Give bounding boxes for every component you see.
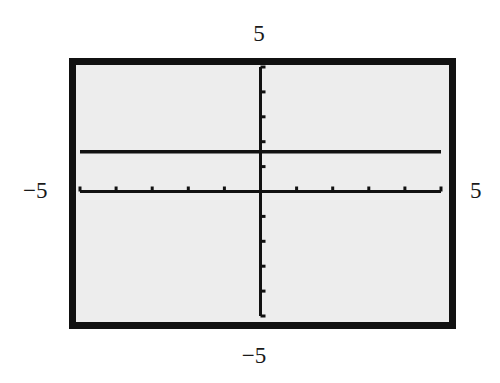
calculator-graph-figure: 5 −5 −5 5 [0,0,500,383]
screen-frame [73,62,453,326]
xmin-label: −5 [23,179,47,202]
ymin-label: −5 [242,344,266,367]
xmax-label: 5 [470,179,482,202]
calculator-screen [0,0,500,383]
ymax-label: 5 [253,22,265,45]
